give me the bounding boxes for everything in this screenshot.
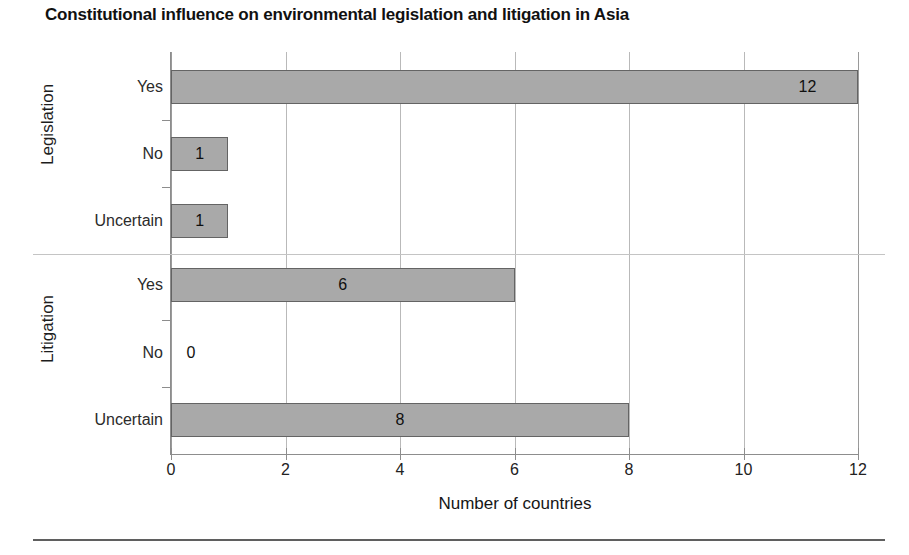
- gridline-0: [171, 52, 172, 454]
- x-tick-label-0: 0: [167, 461, 176, 479]
- x-tick-label-4: 4: [396, 461, 405, 479]
- y-tick-2: [162, 320, 171, 321]
- x-axis-label: Number of countries: [171, 494, 859, 514]
- y-tick-3: [162, 387, 171, 388]
- x-tick-4: [400, 448, 401, 460]
- group-label-text: Litigation: [38, 343, 58, 363]
- x-tick-0: [171, 448, 172, 460]
- plot-area: [171, 52, 858, 454]
- bottom-rule: [33, 539, 885, 541]
- bar-legislation-yes: [171, 70, 858, 104]
- chart-figure: Constitutional influence on environmenta…: [0, 0, 909, 555]
- group-label-text: Legislation: [38, 145, 58, 165]
- bar-value-label: 0: [187, 344, 196, 362]
- y-tick-0: [162, 120, 171, 121]
- x-tick-8: [629, 448, 630, 460]
- group-label-legislation: Legislation: [38, 145, 58, 165]
- x-tick-label-2: 2: [281, 461, 290, 479]
- x-tick-12: [858, 448, 859, 460]
- gridline-12: [858, 52, 859, 454]
- x-tick-2: [286, 448, 287, 460]
- category-label-uncertain: Uncertain: [23, 212, 163, 230]
- x-tick-6: [515, 448, 516, 460]
- gridline-2: [286, 52, 287, 454]
- gridline-4: [400, 52, 401, 454]
- x-tick-label-6: 6: [510, 461, 519, 479]
- bar-value-label: 1: [195, 212, 204, 230]
- bar-value-label: 12: [798, 78, 816, 96]
- gridline-6: [515, 52, 516, 454]
- x-tick-10: [744, 448, 745, 460]
- x-tick-label-12: 12: [849, 461, 867, 479]
- x-tick-label-10: 10: [735, 461, 753, 479]
- category-label-uncertain: Uncertain: [23, 411, 163, 429]
- y-tick-1: [162, 187, 171, 188]
- page-title: Constitutional influence on environmenta…: [45, 5, 875, 25]
- group-separator-line: [33, 254, 885, 255]
- gridline-8: [629, 52, 630, 454]
- category-label-yes: Yes: [23, 276, 163, 294]
- bar-value-label: 1: [195, 145, 204, 163]
- gridline-10: [744, 52, 745, 454]
- group-label-litigation: Litigation: [38, 343, 58, 363]
- bar-value-label: 8: [396, 411, 405, 429]
- bar-value-label: 6: [338, 276, 347, 294]
- x-tick-label-8: 8: [625, 461, 634, 479]
